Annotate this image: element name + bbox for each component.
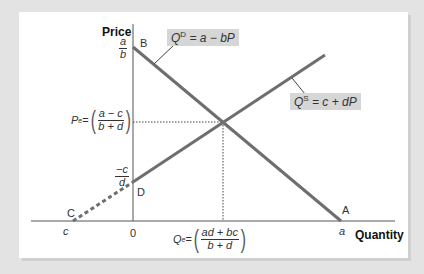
- fraction-denominator: b + d: [97, 121, 124, 133]
- y-intercept-a-over-b: ab: [119, 36, 127, 60]
- point-c-label: C: [67, 208, 75, 219]
- x-intercept-c: c: [63, 226, 69, 237]
- equals-sign: =: [185, 234, 191, 245]
- point-a-label: A: [342, 205, 349, 216]
- demand-symbol: Q: [171, 31, 180, 45]
- fraction-numerator: a − c: [98, 108, 124, 121]
- price-symbol: P: [71, 115, 78, 126]
- right-paren: ): [126, 107, 131, 133]
- supply-symbol: Q: [294, 95, 303, 109]
- right-paren: ): [241, 226, 246, 252]
- demand-equation-label: QD = a − bP: [167, 29, 239, 46]
- fraction-denominator: b: [119, 49, 127, 61]
- x-axis-label: Quantity: [355, 229, 404, 241]
- origin-label: 0: [130, 228, 136, 239]
- x-intercept-a: a: [339, 226, 345, 237]
- demand-curve: [133, 47, 341, 221]
- demand-equation-rhs: = a − bP: [186, 31, 235, 45]
- equilibrium-quantity-label: Qe = ( ad + bcb + d ): [173, 226, 248, 252]
- y-intercept-neg-c-over-d: −cd: [115, 164, 129, 188]
- equals-sign: =: [82, 115, 88, 126]
- quantity-symbol: Q: [173, 234, 182, 245]
- fraction-denominator: b + d: [206, 240, 233, 252]
- fraction-denominator: d: [118, 177, 126, 189]
- fraction-numerator: ad + bc: [201, 227, 239, 240]
- left-paren: (: [90, 107, 95, 133]
- supply-curve: [133, 55, 325, 182]
- fraction-numerator: a: [119, 36, 127, 49]
- fraction-numerator: −c: [115, 164, 129, 177]
- left-paren: (: [194, 226, 199, 252]
- supply-equation-label: QS = c + dP: [290, 93, 361, 110]
- supply-equation-rhs: = c + dP: [309, 95, 357, 109]
- point-d-label: D: [137, 187, 145, 198]
- demand-leader-line: [154, 44, 175, 64]
- equilibrium-price-label: Pe = ( a − cb + d ): [71, 107, 133, 133]
- point-b-label: B: [140, 38, 147, 49]
- supply-leader-line: [292, 78, 305, 94]
